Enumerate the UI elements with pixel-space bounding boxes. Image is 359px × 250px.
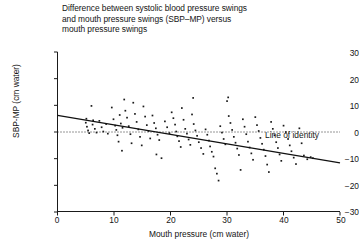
data-point	[92, 124, 94, 126]
data-point	[123, 99, 125, 101]
data-point	[171, 111, 173, 113]
regression-line	[58, 115, 341, 162]
data-point	[202, 153, 204, 155]
data-point	[107, 133, 109, 135]
data-point	[303, 155, 305, 157]
data-point	[178, 140, 180, 142]
data-point	[227, 97, 229, 99]
data-point	[192, 97, 194, 99]
data-point	[157, 134, 159, 136]
data-point	[275, 141, 277, 143]
data-point	[236, 148, 238, 150]
data-point	[122, 127, 124, 129]
data-point	[256, 124, 258, 126]
data-point	[117, 134, 119, 136]
data-point	[228, 115, 230, 117]
data-point	[134, 113, 136, 115]
data-point	[265, 155, 267, 157]
data-point	[238, 154, 240, 156]
data-point	[149, 138, 151, 140]
data-point	[88, 132, 90, 134]
data-point	[216, 173, 218, 175]
data-point	[254, 116, 256, 118]
data-point	[155, 127, 157, 129]
data-point	[258, 130, 260, 132]
data-point	[266, 164, 268, 166]
data-point	[277, 147, 279, 149]
data-point	[191, 114, 193, 116]
data-point	[175, 131, 177, 133]
data-point	[166, 126, 168, 128]
data-point	[120, 123, 122, 125]
data-point	[283, 125, 285, 127]
data-point	[136, 121, 138, 123]
data-point	[287, 138, 289, 140]
data-point	[164, 121, 166, 123]
data-point	[285, 131, 287, 133]
data-point	[200, 147, 202, 149]
data-point	[146, 124, 148, 126]
data-point	[161, 157, 163, 159]
data-point	[196, 135, 198, 137]
data-point	[250, 153, 252, 155]
data-point	[218, 180, 220, 182]
data-point	[144, 116, 146, 118]
data-point	[235, 142, 237, 144]
data-point	[233, 136, 235, 138]
data-point	[141, 145, 143, 147]
y-axis-ticks	[54, 52, 58, 212]
data-point	[252, 159, 254, 161]
data-point	[247, 141, 249, 143]
data-point	[94, 128, 96, 130]
data-point	[270, 121, 272, 123]
data-point	[293, 157, 295, 159]
data-point	[143, 106, 145, 108]
data-point	[186, 133, 188, 135]
data-point	[221, 132, 223, 134]
data-point	[230, 122, 232, 124]
data-point	[102, 131, 104, 133]
data-point	[260, 137, 262, 139]
data-point	[85, 122, 87, 124]
data-point	[153, 122, 155, 124]
data-point	[188, 139, 190, 141]
data-point	[87, 130, 89, 132]
data-point	[211, 151, 213, 153]
data-point	[245, 133, 247, 135]
data-point	[291, 150, 293, 152]
data-point	[86, 118, 88, 120]
data-point	[226, 100, 228, 102]
data-point	[306, 158, 308, 160]
data-point	[139, 136, 141, 138]
data-point	[299, 127, 301, 129]
data-point	[130, 133, 132, 135]
data-point	[231, 129, 233, 131]
data-point	[213, 156, 215, 158]
data-point	[156, 154, 158, 156]
data-point	[125, 110, 127, 112]
data-point	[119, 114, 121, 116]
data-point	[184, 128, 186, 130]
data-point	[180, 146, 182, 148]
data-point	[214, 167, 216, 169]
data-point	[301, 142, 303, 144]
chart-figure: Difference between systolic blood pressu…	[0, 0, 359, 250]
x-axis-ticks	[58, 212, 341, 216]
data-point	[279, 154, 281, 156]
data-point	[99, 120, 101, 122]
data-point	[289, 145, 291, 147]
data-point	[195, 130, 197, 132]
data-point	[198, 141, 200, 143]
data-point	[174, 124, 176, 126]
data-point	[115, 129, 117, 131]
data-point	[209, 146, 211, 148]
data-point	[131, 142, 133, 144]
data-point	[268, 171, 270, 173]
data-point	[244, 126, 246, 128]
data-point	[101, 126, 103, 128]
data-point	[91, 105, 93, 107]
data-point	[295, 163, 297, 165]
data-point	[126, 117, 128, 119]
data-point	[242, 118, 244, 120]
data-point	[280, 160, 282, 162]
